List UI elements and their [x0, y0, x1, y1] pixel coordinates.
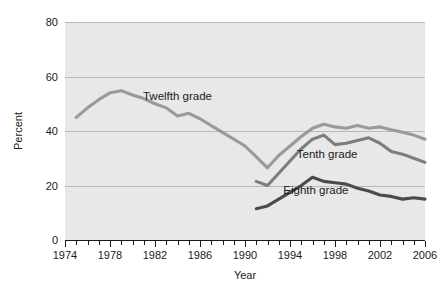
y-tick-label-40: 40: [46, 125, 58, 137]
y-axis-title: Percent: [12, 112, 24, 150]
y-tick-label-60: 60: [46, 71, 58, 83]
x-tick-label-1986: 1986: [188, 249, 212, 261]
x-axis-ticks: [66, 241, 426, 247]
x-tick-label-1982: 1982: [143, 249, 167, 261]
x-axis-tick-labels: 197419781982198619901994199820022006: [53, 249, 437, 261]
x-tick-label-1990: 1990: [233, 249, 257, 261]
x-axis-title: Year: [234, 269, 257, 281]
chart-container: Twelfth gradeTenth gradeEighth grade 197…: [0, 0, 445, 289]
x-tick-label-1994: 1994: [278, 249, 302, 261]
y-tick-label-80: 80: [46, 16, 58, 28]
y-tick-label-0: 0: [52, 234, 58, 246]
y-axis-tick-labels: 020406080: [46, 16, 58, 246]
x-tick-label-2006: 2006: [413, 249, 437, 261]
x-tick-label-2002: 2002: [368, 249, 392, 261]
x-tick-label-1974: 1974: [53, 249, 77, 261]
y-tick-label-20: 20: [46, 180, 58, 192]
series-label-tenth-grade: Tenth grade: [297, 148, 358, 160]
series-label-twelfth-grade: Twelfth grade: [143, 90, 212, 102]
line-chart: Twelfth gradeTenth gradeEighth grade 197…: [0, 0, 445, 289]
series-label-eighth-grade: Eighth grade: [283, 184, 348, 196]
x-tick-label-1978: 1978: [98, 249, 122, 261]
x-tick-label-1998: 1998: [323, 249, 347, 261]
